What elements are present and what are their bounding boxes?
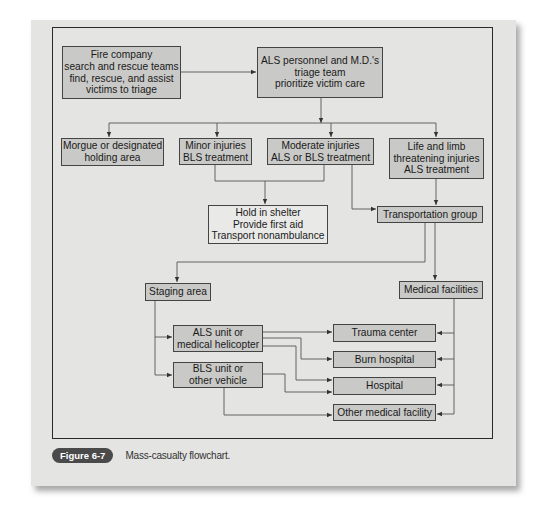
figure-caption: Figure 6-7 Mass-casualty flowchart. xyxy=(52,448,230,463)
node-text: Burn hospital xyxy=(355,354,414,366)
node-text: medical helicopter xyxy=(177,339,259,351)
node-fire-company: Fire company search and rescue teams fin… xyxy=(62,46,181,99)
node-transportation-group: Transportation group xyxy=(377,206,483,223)
node-text: Transport nonambulance xyxy=(212,230,325,242)
node-text: search and rescue teams xyxy=(64,61,178,73)
node-text: Staging area xyxy=(149,286,207,298)
node-text: Life and limb xyxy=(408,141,466,153)
node-text: Hospital xyxy=(366,380,403,392)
node-text: find, rescue, and assist xyxy=(69,73,173,85)
node-text: holding area xyxy=(84,152,140,164)
node-text: threatening injuries xyxy=(393,153,479,165)
node-minor-injuries: Minor injuries BLS treatment xyxy=(179,138,252,165)
node-text: Transportation group xyxy=(383,209,477,221)
node-text: Hold in shelter xyxy=(235,207,300,219)
node-text: Medical facilities xyxy=(404,284,478,296)
node-text: Morgue or designated xyxy=(63,140,162,152)
node-life-limb-injuries: Life and limb threatening injuries ALS t… xyxy=(389,138,484,179)
node-hospital: Hospital xyxy=(333,377,436,395)
node-staging-area: Staging area xyxy=(145,283,211,301)
node-text: Trauma center xyxy=(352,327,418,339)
figure-number-badge: Figure 6-7 xyxy=(52,448,113,463)
node-text: Provide first aid xyxy=(233,219,303,231)
node-text: ALS unit or xyxy=(193,327,243,339)
caption-text: Mass-casualty flowchart. xyxy=(125,450,230,461)
node-moderate-injuries: Moderate injuries ALS or BLS treatment xyxy=(267,138,374,165)
node-text: Minor injuries xyxy=(185,140,246,152)
node-triage-team: ALS personnel and M.D.'s triage team pri… xyxy=(257,47,383,98)
node-text: ALS treatment xyxy=(404,164,469,176)
node-text: Other medical facility xyxy=(337,407,432,419)
node-text: ALS or BLS treatment xyxy=(271,152,370,164)
node-hold-in-shelter: Hold in shelter Provide first aid Transp… xyxy=(208,205,328,244)
node-medical-facilities: Medical facilities xyxy=(399,281,483,299)
node-text: triage team xyxy=(295,67,346,79)
node-other-medical-facility: Other medical facility xyxy=(333,404,436,421)
node-text: other vehicle xyxy=(189,375,247,387)
node-text: Moderate injuries xyxy=(281,140,359,152)
node-trauma-center: Trauma center xyxy=(333,324,436,342)
node-text: BLS unit or xyxy=(193,363,243,375)
node-text: BLS treatment xyxy=(183,152,248,164)
node-morgue: Morgue or designated holding area xyxy=(61,138,164,166)
node-text: Fire company xyxy=(91,49,153,61)
node-bls-unit: BLS unit or other vehicle xyxy=(173,362,263,388)
node-text: prioritize victim care xyxy=(275,78,365,90)
node-text: ALS personnel and M.D.'s xyxy=(261,55,379,67)
node-burn-hospital: Burn hospital xyxy=(333,351,436,368)
node-als-unit: ALS unit or medical helicopter xyxy=(173,325,263,352)
node-text: victims to triage xyxy=(86,84,157,96)
